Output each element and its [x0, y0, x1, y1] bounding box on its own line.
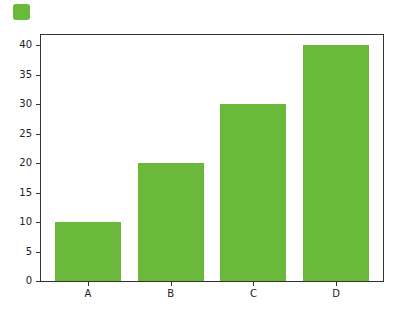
plot-area	[40, 34, 384, 282]
bar-a	[55, 222, 121, 281]
y-tick-label: 25	[19, 127, 32, 141]
bar-b	[138, 163, 204, 281]
x-tick-label: A	[78, 288, 98, 299]
x-tick-label: C	[243, 288, 263, 299]
y-tick-label: 35	[19, 68, 32, 82]
y-tick-label: 30	[19, 97, 32, 111]
x-tick-label: D	[326, 288, 346, 299]
y-tick-label: 10	[19, 215, 32, 229]
bar-c	[220, 104, 286, 281]
y-tick-label: 0	[26, 274, 32, 288]
bar-d	[303, 45, 369, 281]
y-tick-label: 15	[19, 186, 32, 200]
legend-color-patch	[13, 4, 30, 20]
y-tick-label: 40	[19, 38, 32, 52]
x-tick-label: B	[161, 288, 181, 299]
y-tick-label: 20	[19, 156, 32, 170]
y-tick-label: 5	[26, 245, 32, 259]
